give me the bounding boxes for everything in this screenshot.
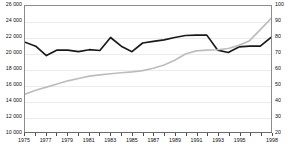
- x-axis-tick-label: 1998: [266, 138, 278, 143]
- x-axis-tick: [261, 133, 262, 136]
- x-axis-tick: [186, 133, 187, 136]
- left-axis-tick-label: 18 000: [0, 66, 22, 71]
- x-axis-tick: [240, 133, 241, 136]
- x-axis-tick: [89, 133, 90, 136]
- right-axis-tick-label: 30: [275, 114, 281, 119]
- left-axis-tick-label: 22 000: [0, 34, 22, 39]
- x-axis-tick-label: 1977: [40, 138, 52, 143]
- left-axis-tick-label: 14 000: [0, 98, 22, 103]
- left-axis-labels: 10 00012 00014 00016 00018 00020 00022 0…: [0, 5, 22, 133]
- left-axis-tick-label: 24 000: [0, 18, 22, 23]
- right-axis-tick-label: 80: [275, 34, 281, 39]
- left-axis-tick-label: 16 000: [0, 82, 22, 87]
- right-axis-tick-label: 70: [275, 50, 281, 55]
- x-axis-tick: [229, 133, 230, 136]
- x-axis-tick: [132, 133, 133, 136]
- x-axis-tick: [218, 133, 219, 136]
- x-axis-tick: [197, 133, 198, 136]
- x-axis-tick: [67, 133, 68, 136]
- right-axis-tick-label: 20: [275, 130, 281, 135]
- right-axis-tick-label: 60: [275, 66, 281, 71]
- x-axis-tick: [272, 133, 273, 136]
- x-axis-tick-label: 1987: [147, 138, 159, 143]
- x-axis-tick: [207, 133, 208, 136]
- x-axis-tick: [99, 133, 100, 136]
- x-axis-tick: [153, 133, 154, 136]
- x-axis-tick: [175, 133, 176, 136]
- x-axis-labels: 1975197719791981198319851987198919911993…: [0, 138, 301, 150]
- series-line-gray-series: [25, 19, 271, 95]
- x-axis-tick: [56, 133, 57, 136]
- x-axis-tick-label: 1991: [191, 138, 203, 143]
- x-axis-tick-label: 1983: [104, 138, 116, 143]
- plot-area: [24, 5, 272, 133]
- right-axis-labels: 2030405060708090100: [275, 5, 299, 133]
- series-svg: [25, 6, 271, 132]
- x-axis-tick-label: 1985: [126, 138, 138, 143]
- left-axis-tick-label: 20 000: [0, 50, 22, 55]
- x-axis-tick-label: 1981: [83, 138, 95, 143]
- left-axis-tick-label: 12 000: [0, 114, 22, 119]
- x-axis-tick: [46, 133, 47, 136]
- x-axis-tick: [78, 133, 79, 136]
- x-axis-tick-label: 1989: [169, 138, 181, 143]
- chart-container: 10 00012 00014 00016 00018 00020 00022 0…: [0, 0, 301, 157]
- x-axis-tick-label: 1995: [234, 138, 246, 143]
- x-axis-tick: [164, 133, 165, 136]
- right-axis-tick-label: 100: [275, 2, 284, 7]
- x-axis-tick: [24, 133, 25, 136]
- series-line-black-series: [25, 35, 271, 55]
- right-axis-tick-label: 50: [275, 82, 281, 87]
- x-axis-tick: [121, 133, 122, 136]
- x-axis-tick: [250, 133, 251, 136]
- x-axis-tick: [35, 133, 36, 136]
- x-axis-tick-label: 1993: [212, 138, 224, 143]
- x-axis-tick: [143, 133, 144, 136]
- right-axis-tick-label: 90: [275, 18, 281, 23]
- x-axis-tick-label: 1975: [18, 138, 30, 143]
- x-axis-tick-label: 1979: [61, 138, 73, 143]
- left-axis-tick-label: 10 000: [0, 130, 22, 135]
- right-axis-tick-label: 40: [275, 98, 281, 103]
- x-axis-tick: [110, 133, 111, 136]
- left-axis-tick-label: 26 000: [0, 2, 22, 7]
